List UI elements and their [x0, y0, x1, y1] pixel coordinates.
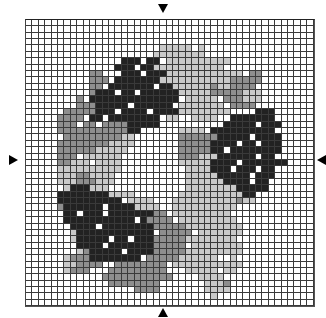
grid-cell: [307, 300, 313, 306]
center-marker-bottom-arrow-icon: [158, 308, 168, 317]
center-marker-right-arrow-icon: [317, 155, 326, 165]
cross-stitch-pattern-grid: [25, 19, 315, 307]
center-marker-top-arrow-icon: [158, 4, 168, 13]
center-marker-left-arrow-icon: [9, 155, 18, 165]
